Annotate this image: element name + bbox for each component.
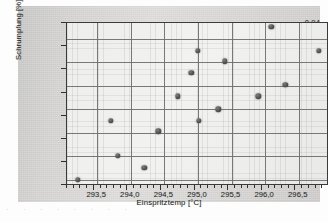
x-tick [288, 185, 289, 188]
x-tick [120, 185, 121, 188]
x-tick [133, 185, 134, 188]
data-point [75, 177, 80, 182]
data-point [142, 165, 147, 170]
x-tick [113, 185, 114, 188]
x-tick [241, 185, 242, 188]
page-bleed-text: · · · · · · · · [0, 205, 328, 221]
x-tick [100, 185, 101, 188]
x-tick [221, 185, 222, 188]
gridline-horizontal [67, 86, 327, 87]
x-tick [187, 185, 188, 188]
x-tick [308, 185, 309, 188]
scatter-plot-area [66, 22, 328, 185]
x-tick [180, 185, 181, 188]
data-point [196, 118, 201, 123]
gridline-horizontal [67, 39, 327, 40]
figure-page: Schrumpfung [%] 0,94 0,92 0,90 0,88 0,86… [0, 0, 328, 222]
x-tick [207, 185, 208, 188]
gridline-vertical [131, 23, 132, 184]
gridline-horizontal [67, 109, 327, 110]
gridline-vertical [265, 23, 266, 184]
x-tick [315, 185, 316, 188]
x-tick [234, 185, 235, 188]
x-tick [173, 185, 174, 188]
x-tick [79, 185, 80, 188]
data-point [269, 24, 274, 29]
scanned-figure-plate: Schrumpfung [%] 0,94 0,92 0,90 0,88 0,86… [18, 6, 320, 202]
x-tick [281, 185, 282, 188]
x-tick [167, 185, 168, 188]
x-tick [106, 185, 107, 188]
x-tick [66, 185, 67, 188]
x-tick [140, 185, 141, 188]
x-tick [321, 185, 322, 188]
x-tick [200, 185, 201, 188]
data-point [215, 106, 220, 111]
x-tick [301, 185, 302, 188]
data-point [256, 94, 261, 99]
x-tick [274, 185, 275, 188]
data-point [115, 153, 120, 158]
x-tick [214, 185, 215, 188]
x-tick [254, 185, 255, 188]
y-axis-title: Schrumpfung [%] [14, 0, 23, 60]
gridline-horizontal [67, 180, 327, 181]
gridline-vertical [164, 23, 165, 184]
gridline-vertical [97, 23, 98, 184]
gridline-horizontal [67, 133, 327, 134]
gridline-horizontal [67, 62, 327, 63]
x-tick [247, 185, 248, 188]
data-point [195, 48, 200, 53]
x-tick [268, 185, 269, 188]
gridline-horizontal [67, 156, 327, 157]
data-point [108, 118, 113, 123]
gridline-vertical [232, 23, 233, 184]
gridline-vertical [299, 23, 300, 184]
x-tick [147, 185, 148, 188]
x-tick [86, 185, 87, 188]
data-point [189, 70, 194, 75]
data-point [316, 48, 321, 53]
x-tick [73, 185, 74, 188]
data-point [175, 94, 180, 99]
x-tick [153, 185, 154, 188]
